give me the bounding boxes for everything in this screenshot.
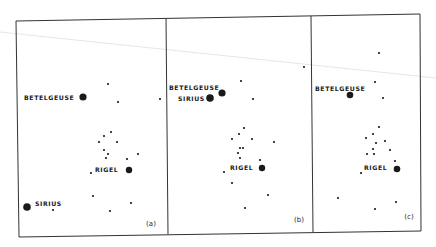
star-dot <box>105 157 107 159</box>
star-chart-figure: BETELGEUSERIGELSIRIUS(a)BETELGEUSESIRIUS… <box>0 0 436 247</box>
star-dot <box>239 157 241 159</box>
star-dot <box>365 137 367 139</box>
panel-b: BETELGEUSESIRIUSRIGEL(b) <box>169 66 305 224</box>
star-dot <box>103 135 105 137</box>
star-dot <box>159 98 161 100</box>
star-dot <box>107 153 109 155</box>
star-dot <box>259 159 261 161</box>
star-dot <box>384 140 386 142</box>
star-dot <box>394 160 396 162</box>
star-dot <box>223 171 225 173</box>
star-label-betelgeuse: BETELGEUSE <box>24 94 74 101</box>
star-dot <box>238 133 240 135</box>
star-label-sirius: SIRIUS <box>178 95 205 102</box>
star-dot <box>90 172 92 174</box>
star-panels-diagram: BETELGEUSERIGELSIRIUS(a)BETELGEUSESIRIUS… <box>0 0 436 247</box>
star-dot <box>110 131 112 133</box>
star-dot <box>107 83 109 85</box>
star-dot <box>117 101 119 103</box>
panel-divider-2 <box>311 16 313 232</box>
star-dot <box>239 147 241 149</box>
star-dot <box>378 126 380 128</box>
star-dot <box>52 209 54 211</box>
panels-group: BETELGEUSERIGELSIRIUS(a)BETELGEUSESIRIUS… <box>23 52 414 228</box>
star-rigel <box>126 167 132 173</box>
star-dot <box>231 138 233 140</box>
star-rigel <box>394 166 401 173</box>
star-dot <box>395 201 397 203</box>
panel-caption: (c) <box>404 213 414 221</box>
star-dot <box>337 197 339 199</box>
star-dot <box>267 194 269 196</box>
star-dot <box>130 202 132 204</box>
star-label-betelgeuse: BETELGEUSE <box>169 84 219 91</box>
star-dot <box>126 158 128 160</box>
star-dot <box>372 148 374 150</box>
star-dot <box>242 147 244 149</box>
star-dot <box>374 208 376 210</box>
star-dot <box>382 97 384 99</box>
star-dot <box>243 127 245 129</box>
panel-frame <box>16 14 421 237</box>
star-dot <box>374 81 376 83</box>
star-dot <box>244 207 246 209</box>
star-dot <box>103 149 105 151</box>
star-sirius <box>206 94 214 102</box>
star-dot <box>252 98 254 100</box>
star-dot <box>109 210 111 212</box>
panel-caption: (a) <box>146 220 156 228</box>
star-label-rigel: RIGEL <box>364 164 387 171</box>
star-dot <box>231 182 233 184</box>
star-dot <box>372 133 374 135</box>
scan-artifact-line <box>0 32 436 78</box>
star-label-sirius: SIRIUS <box>35 200 62 207</box>
panel-divider-1 <box>166 18 168 234</box>
star-dot <box>237 152 239 154</box>
star-dot <box>116 141 118 143</box>
panel-c: BETELGEUSERIGEL(c) <box>315 52 414 221</box>
panel-a: BETELGEUSERIGELSIRIUS(a) <box>23 83 161 228</box>
star-dot <box>375 142 377 144</box>
star-label-rigel: RIGEL <box>230 164 253 171</box>
star-dot <box>389 149 391 151</box>
star-rigel <box>259 165 265 171</box>
star-dot <box>273 141 275 143</box>
star-betelgeuse <box>218 89 225 96</box>
star-label-rigel: RIGEL <box>95 166 118 173</box>
star-sirius <box>23 203 31 211</box>
star-betelgeuse <box>79 93 86 100</box>
star-betelgeuse <box>347 92 354 99</box>
star-dot <box>251 138 253 140</box>
star-dot <box>98 141 100 143</box>
star-dot <box>92 195 94 197</box>
star-dot <box>303 66 305 68</box>
star-dot <box>378 52 380 54</box>
star-dot <box>373 153 375 155</box>
panel-dividers <box>166 16 313 234</box>
star-dot <box>137 153 139 155</box>
star-dot <box>366 153 368 155</box>
panel-caption: (b) <box>294 216 304 224</box>
star-dot <box>360 172 362 174</box>
star-dot <box>240 80 242 82</box>
star-label-betelgeuse: BETELGEUSE <box>315 85 365 92</box>
